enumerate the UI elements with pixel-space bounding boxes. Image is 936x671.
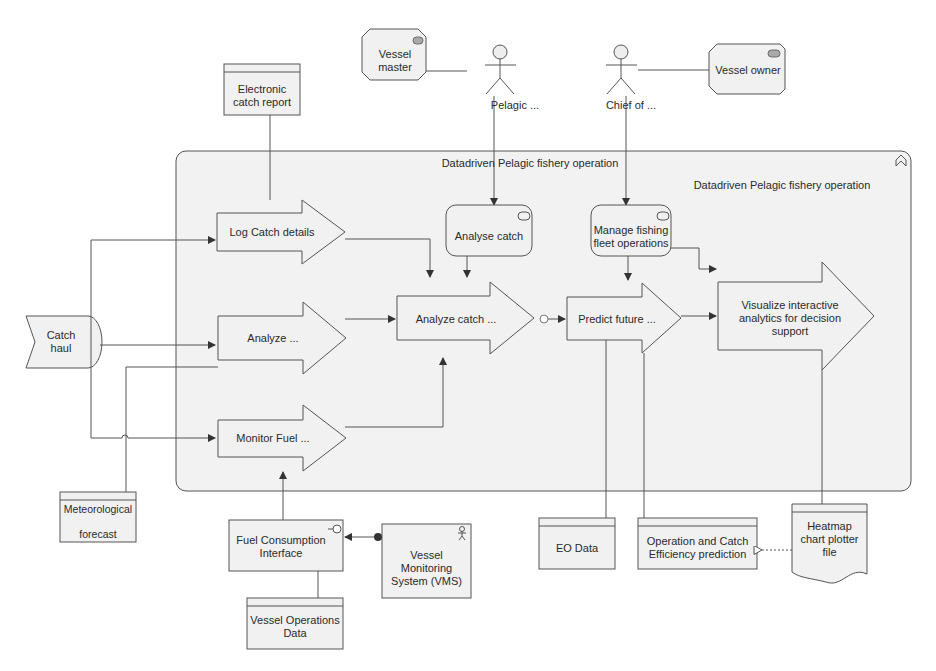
data-electronic-catch-report-label: Electronic catch report (226, 79, 298, 113)
actor-pelagic-label: Pelagic ... (480, 98, 550, 112)
role-vessel-master-label: Vessel master (364, 44, 426, 78)
actor-chief-icon[interactable] (606, 45, 637, 94)
actor-chief-label: Chief of ... (596, 98, 666, 112)
role-icon (768, 50, 780, 57)
process-analyze-catch-label: Analyze catch ... (397, 312, 515, 326)
group-title-top: Datadriven Pelagic fishery operation (400, 156, 660, 170)
function-analyse-catch-label: Analyse catch (446, 228, 532, 244)
process-monitor-fuel-label: Monitor Fuel ... (218, 431, 328, 445)
process-visualize-label: Visualize interactive analytics for deci… (730, 296, 850, 340)
interface-fuel-consumption-label: Fuel Consumption Interface (231, 532, 331, 562)
artifact-heatmap-label: Heatmap chart plotter file (794, 516, 865, 562)
role-icon (413, 37, 423, 44)
assignment-dot (374, 533, 382, 541)
event-catch-haul-label: Catch haul (36, 327, 86, 357)
data-operation-catch-efficiency-label: Operation and Catch Efficiency predictio… (640, 533, 755, 563)
process-log-catch-label: Log Catch details (217, 225, 327, 239)
function-manage-fleet-label: Manage fishing fleet operations (591, 222, 671, 252)
data-meteorological-label-2: forecast (60, 527, 136, 541)
component-vms-label: Vessel Monitoring System (VMS) (384, 545, 469, 591)
process-analyze-label: Analyze ... (218, 331, 328, 345)
role-vessel-owner-label: Vessel owner (711, 62, 785, 78)
data-eo-data-label: EO Data (539, 540, 615, 556)
actor-pelagic-icon[interactable] (485, 45, 516, 94)
group-title-inner: Datadriven Pelagic fishery operation (672, 178, 892, 192)
data-meteorological-label-1: Meteorological (60, 502, 136, 516)
process-predict-future-label: Predict future ... (567, 312, 667, 326)
junction-or (540, 315, 548, 323)
data-vessel-operations-label: Vessel Operations Data (247, 612, 343, 642)
